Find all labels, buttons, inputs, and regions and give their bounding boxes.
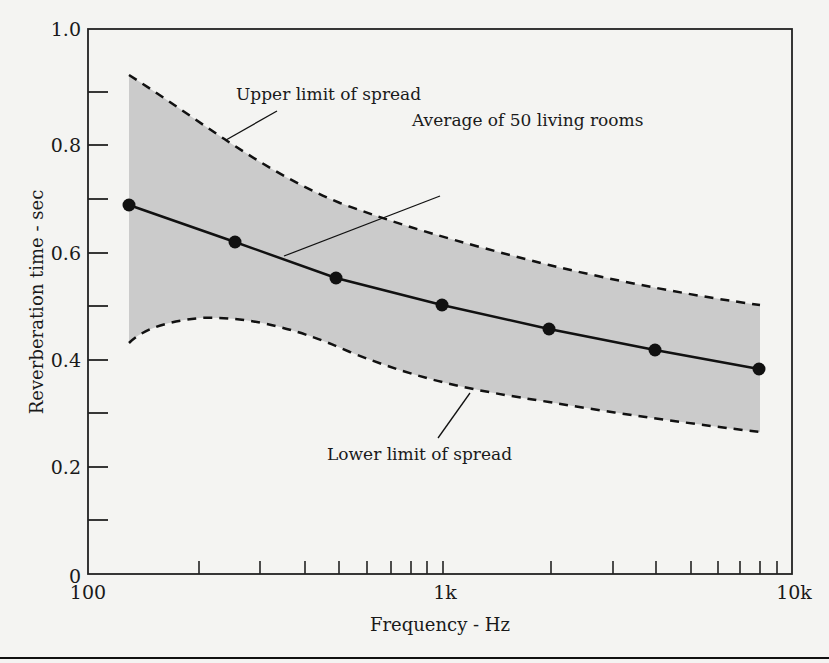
average-label: Average of 50 living rooms (411, 110, 643, 130)
y-tick-0.8: 0.8 (51, 134, 81, 156)
y-ticks (88, 92, 108, 520)
upper-limit-label: Upper limit of spread (236, 84, 421, 104)
y-tick-0.6: 0.6 (51, 242, 81, 264)
x-axis-title: Frequency - Hz (370, 614, 510, 635)
lower-limit-label: Lower limit of spread (327, 444, 512, 464)
x-tick-1k: 1k (433, 581, 457, 603)
x-tick-100: 100 (70, 581, 106, 603)
x-tick-10k: 10k (776, 581, 812, 603)
x-ticks (199, 561, 777, 574)
y-tick-0.2: 0.2 (51, 456, 81, 478)
reverberation-chart: 1.0 0.8 0.6 0.4 0.2 0 100 1k 10k Frequen… (0, 0, 829, 663)
y-axis-title: Reverberation time - sec (26, 190, 47, 415)
y-tick-0.4: 0.4 (51, 349, 81, 371)
y-tick-1.0: 1.0 (51, 18, 81, 40)
